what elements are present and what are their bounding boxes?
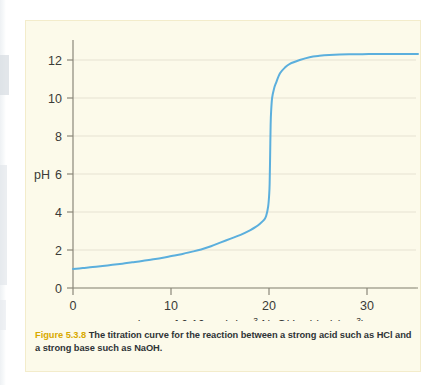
y-tick-label: 2 bbox=[55, 244, 62, 258]
figure-caption: Figure 5.3.8 The titration curve for the… bbox=[26, 323, 422, 354]
titration-curve-plot: 0 2 4 6 8 10 12 pH 0 10 20 30 volume of bbox=[26, 21, 422, 321]
x-tick-label: 30 bbox=[360, 299, 374, 313]
x-axis-label-tail: ) bbox=[361, 318, 365, 322]
figure-number: Figure 5.3.8 bbox=[35, 330, 86, 340]
figure-panel: 0 2 4 6 8 10 12 pH 0 10 20 30 volume of bbox=[25, 20, 421, 372]
gridlines bbox=[73, 60, 416, 288]
y-tick-label: 10 bbox=[48, 92, 62, 106]
x-tick-label: 20 bbox=[262, 299, 276, 313]
scan-edge-artifact bbox=[0, 300, 6, 330]
x-axis-label-sup1: −3 bbox=[248, 316, 258, 322]
y-tick-marks bbox=[67, 60, 73, 288]
x-tick-label: 10 bbox=[164, 299, 178, 313]
scan-edge-artifact bbox=[0, 165, 7, 285]
x-tick-labels: 0 10 20 30 bbox=[70, 299, 374, 313]
y-axis-label: pH bbox=[34, 168, 50, 182]
plot-svg: 0 2 4 6 8 10 12 pH 0 10 20 30 volume of bbox=[26, 21, 422, 321]
y-tick-label: 0 bbox=[55, 282, 62, 296]
y-tick-label: 6 bbox=[55, 168, 62, 182]
x-axis-label-lead: volume of 0.10 mol dm bbox=[125, 318, 248, 322]
y-tick-label: 12 bbox=[48, 54, 62, 68]
scan-edge-artifact bbox=[0, 55, 9, 95]
x-axis-label-mid: NaOH added (cm bbox=[258, 318, 356, 322]
y-tick-labels: 0 2 4 6 8 10 12 bbox=[48, 54, 62, 296]
y-tick-label: 4 bbox=[55, 206, 62, 220]
x-tick-marks bbox=[73, 288, 367, 295]
x-axis-label: volume of 0.10 mol dm−3 NaOH added (cm3) bbox=[125, 316, 365, 322]
figure-caption-text: The titration curve for the reaction bet… bbox=[35, 330, 411, 353]
titration-curve-line bbox=[73, 54, 418, 269]
y-tick-label: 8 bbox=[55, 130, 62, 144]
x-tick-label: 0 bbox=[70, 299, 77, 313]
